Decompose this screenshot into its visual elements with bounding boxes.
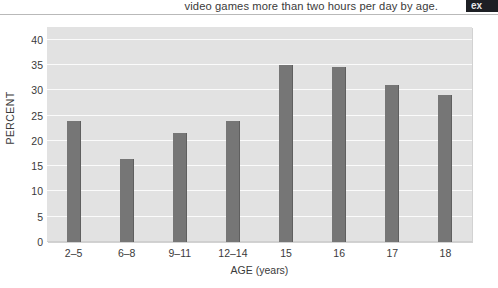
x-tick-label: 2–5 <box>44 247 104 259</box>
gridline <box>47 165 472 166</box>
x-axis-title: AGE (years) <box>47 264 472 276</box>
x-tick-label: 9–11 <box>150 247 210 259</box>
y-axis-title: PERCENT <box>4 83 16 153</box>
y-tick-label: 35 <box>3 60 43 70</box>
bar <box>226 121 240 242</box>
x-tick-label: 16 <box>309 247 369 259</box>
bar <box>385 85 399 242</box>
bar <box>438 95 452 242</box>
plot-area <box>47 27 472 242</box>
y-tick-label: 15 <box>3 161 43 171</box>
bar <box>67 121 81 242</box>
x-tick-label: 18 <box>415 247 475 259</box>
gridline <box>47 39 472 40</box>
bar <box>173 133 187 242</box>
y-tick-label: 5 <box>3 212 43 222</box>
x-tick-label: 12–14 <box>203 247 263 259</box>
bar <box>279 65 293 242</box>
corner-badge: ex <box>466 0 498 12</box>
gridline <box>47 89 472 90</box>
gridline <box>47 216 472 217</box>
caption-strip: video games more than two hours per day … <box>0 0 498 14</box>
gridline <box>47 241 472 242</box>
horizontal-rule <box>0 14 498 15</box>
bar <box>120 159 134 242</box>
y-tick-label: 10 <box>3 186 43 196</box>
figure-caption: video games more than two hours per day … <box>185 0 438 13</box>
y-tick-label: 0 <box>3 237 43 247</box>
gridline <box>47 115 472 116</box>
gridline <box>47 140 472 141</box>
x-axis: 2–56–89–1112–1415161718 <box>47 247 472 261</box>
bar-chart-figure: 0510152025303540 PERCENT 2–56–89–1112–14… <box>0 16 498 288</box>
bar <box>332 67 346 242</box>
corner-badge-label: ex <box>471 0 482 12</box>
y-tick-label: 40 <box>3 35 43 45</box>
x-tick-label: 17 <box>362 247 422 259</box>
gridline <box>47 64 472 65</box>
x-tick-label: 6–8 <box>97 247 157 259</box>
x-tick-label: 15 <box>256 247 316 259</box>
gridline <box>47 190 472 191</box>
